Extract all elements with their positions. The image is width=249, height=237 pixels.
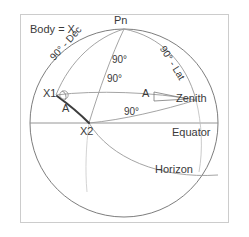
label-equator: Equator	[172, 127, 211, 138]
label-point-x1: X1	[43, 88, 56, 99]
diagram-canvas	[0, 0, 249, 237]
label-right-angle-3: 90°	[124, 107, 139, 117]
label-point-x2: X2	[80, 126, 93, 137]
label-angle-a-right: A	[142, 88, 149, 99]
label-zenith: Zenith	[176, 93, 207, 104]
label-right-angle-1: 90°	[112, 55, 127, 65]
label-horizon: Horizon	[155, 164, 193, 175]
celestial-diagram: Body = X Pn Zenith Equator Horizon X1 X2…	[0, 0, 249, 237]
label-north-pole: Pn	[114, 15, 127, 26]
label-angle-a-left: A	[62, 103, 69, 114]
label-right-angle-2: 90°	[107, 74, 122, 84]
